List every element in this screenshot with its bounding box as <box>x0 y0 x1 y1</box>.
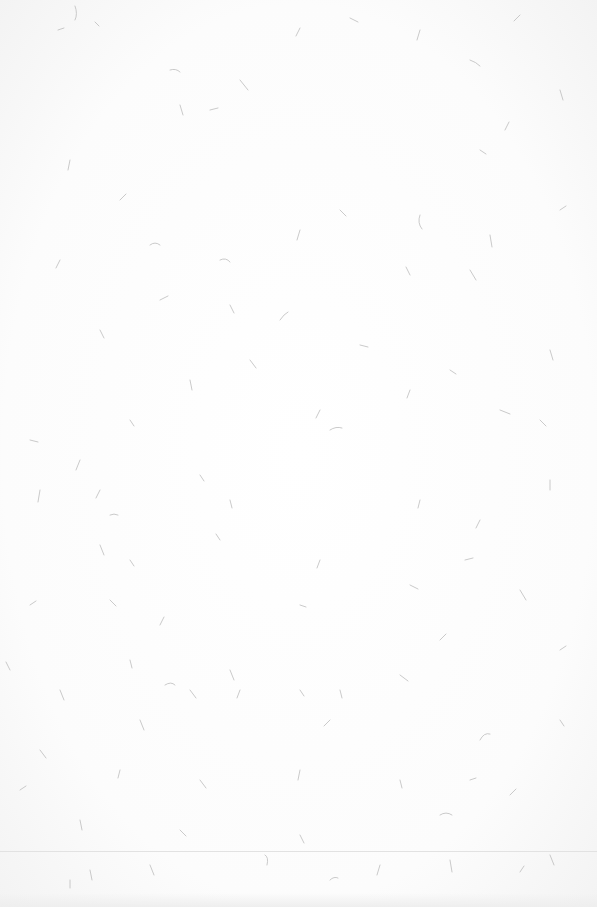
paper-edge-shadow <box>0 893 597 907</box>
fold-line <box>0 851 597 852</box>
paper-fibers <box>0 0 597 907</box>
textured-paper <box>0 0 597 907</box>
